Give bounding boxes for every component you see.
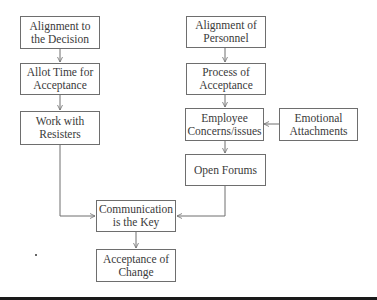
node-employee-concerns: Employee Concerns/issues <box>185 108 264 141</box>
node-alignment-of-personnel: Alignment of Personnel <box>186 16 266 48</box>
node-communication-is-the-key: Communication is the Key <box>96 200 176 232</box>
stray-dot <box>35 254 37 256</box>
node-acceptance-of-change: Acceptance of Change <box>96 249 176 282</box>
node-process-of-acceptance: Process of Acceptance <box>186 63 266 95</box>
node-work-with-resisters: Work with Resisters <box>20 111 100 145</box>
node-open-forums: Open Forums <box>185 154 266 186</box>
node-allot-time: Allot Time for Acceptance <box>20 63 100 95</box>
node-emotional-attachments: Emotional Attachments <box>279 108 358 141</box>
node-alignment-to-decision: Alignment to the Decision <box>20 16 100 49</box>
